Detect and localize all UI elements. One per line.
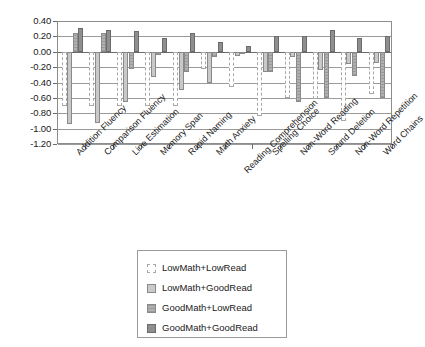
legend: LowMath+LowReadLowMath+GoodReadGoodMath+… — [137, 250, 287, 338]
bar — [369, 52, 374, 94]
legend-item-label: GoodMath+GoodRead — [162, 323, 258, 333]
bar — [190, 33, 195, 52]
y-axis-tick-label: 0.20 — [33, 32, 51, 42]
bar — [78, 28, 83, 52]
bar — [330, 30, 335, 52]
bar — [318, 52, 323, 70]
legend-item-label: LowMath+LowRead — [162, 263, 246, 273]
bar — [257, 52, 262, 117]
bar — [212, 52, 217, 57]
legend-item-label: LowMath+GoodRead — [162, 283, 252, 293]
bar-group — [252, 21, 280, 144]
y-axis-tick-label: -1.00 — [30, 124, 51, 134]
bar — [285, 52, 290, 98]
bar — [73, 33, 78, 51]
legend-item-label: GoodMath+LowRead — [162, 303, 252, 313]
bar — [274, 36, 279, 51]
bar — [184, 52, 189, 72]
bar — [201, 52, 206, 69]
y-axis: 0.400.200.00-0.20-0.40-0.60-0.80-1.00-1.… — [0, 21, 57, 144]
bar — [374, 52, 379, 63]
bar — [151, 52, 156, 77]
bar — [296, 52, 301, 103]
bar — [162, 38, 167, 52]
legend-item[interactable]: GoodMath+LowRead — [147, 298, 286, 318]
y-axis-tick-label: -0.20 — [30, 62, 51, 72]
bar — [129, 52, 134, 69]
bar — [207, 52, 212, 83]
bar — [67, 52, 72, 124]
bar — [145, 52, 150, 106]
legend-item[interactable]: LowMath+GoodRead — [147, 278, 286, 298]
bar — [89, 52, 94, 106]
x-axis-labels: Addition FluencyComparison FluencyLine E… — [0, 146, 399, 246]
bar — [263, 52, 268, 72]
y-axis-tick-label: -0.80 — [30, 109, 51, 119]
legend-item[interactable]: LowMath+LowRead — [147, 258, 286, 278]
bar — [357, 38, 362, 52]
bar — [101, 33, 106, 51]
legend-swatch-icon — [147, 324, 156, 333]
y-axis-tick-label: 0.00 — [33, 47, 51, 57]
y-axis-tick-label: 0.40 — [33, 16, 51, 26]
y-axis-tick-label: -0.60 — [30, 93, 51, 103]
bar — [380, 52, 385, 98]
bar — [179, 52, 184, 90]
bar — [240, 52, 245, 54]
legend-swatch-icon — [147, 264, 156, 273]
legend-swatch-icon — [147, 304, 156, 313]
bar — [235, 52, 240, 56]
bar — [352, 52, 357, 76]
bar — [302, 36, 307, 52]
bar — [313, 52, 318, 100]
bar — [346, 52, 351, 64]
bar — [173, 52, 178, 106]
bar — [123, 52, 128, 103]
bar — [156, 52, 161, 55]
bar — [117, 52, 122, 106]
legend-item[interactable]: GoodMath+GoodRead — [147, 318, 286, 338]
bar — [268, 52, 273, 72]
bar — [290, 52, 295, 57]
bar — [95, 52, 100, 123]
bar — [324, 52, 329, 98]
bar — [62, 52, 67, 106]
bar — [106, 30, 111, 52]
legend-swatch-icon — [147, 284, 156, 293]
bar-group — [57, 21, 85, 144]
bar — [246, 46, 251, 52]
bar — [385, 36, 390, 51]
bar — [134, 31, 139, 52]
y-axis-tick-label: -0.40 — [30, 78, 51, 88]
bar — [229, 52, 234, 87]
bar — [218, 42, 223, 52]
